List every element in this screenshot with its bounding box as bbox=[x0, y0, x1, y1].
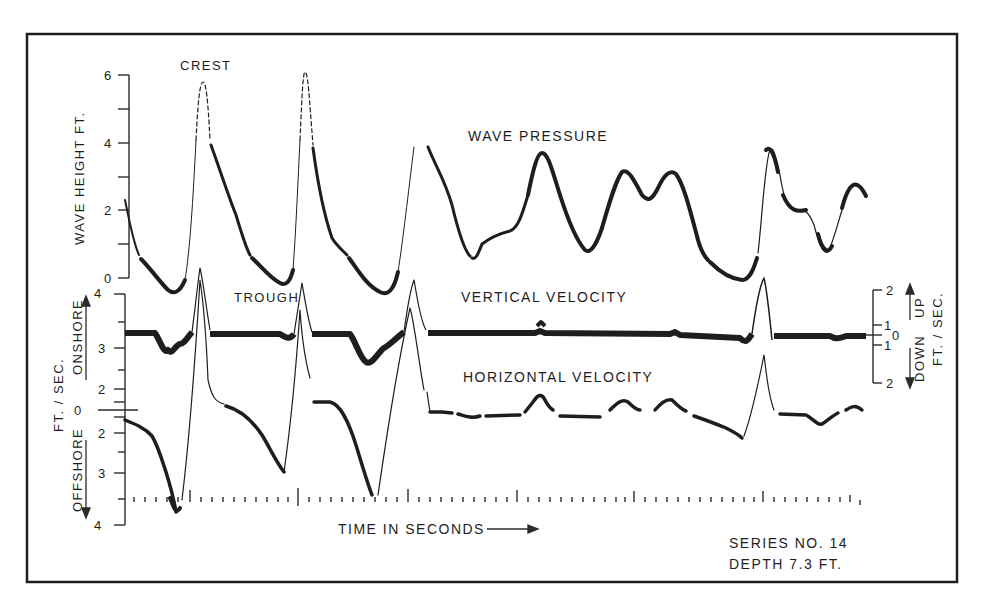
time-ticks bbox=[134, 488, 860, 506]
trough-label: TROUGH bbox=[234, 290, 299, 305]
svg-text:0: 0 bbox=[104, 271, 111, 286]
time-axis-label: TIME IN SECONDS bbox=[338, 521, 485, 537]
svg-text:1: 1 bbox=[884, 338, 891, 353]
svg-text:4: 4 bbox=[104, 136, 111, 151]
wave-height-axis bbox=[118, 75, 129, 278]
svg-text:6: 6 bbox=[104, 68, 111, 83]
up-label: UP bbox=[912, 297, 927, 318]
wave-height-tick-labels: 6 4 2 0 bbox=[104, 68, 111, 286]
horizontal-velocity-axis bbox=[98, 294, 138, 525]
svg-text:2: 2 bbox=[886, 283, 893, 298]
vertical-velocity-trace bbox=[125, 268, 866, 363]
onshore-label: ONSHORE bbox=[70, 299, 85, 375]
depth-label: DEPTH 7.3 FT. bbox=[729, 556, 843, 572]
svg-text:4: 4 bbox=[94, 518, 101, 533]
wave-height-axis-label: WAVE HEIGHT FT. bbox=[72, 112, 87, 246]
svg-text:0: 0 bbox=[74, 403, 81, 418]
vertical-velocity-label: VERTICAL VELOCITY bbox=[461, 289, 627, 305]
wave-pressure-label: WAVE PRESSURE bbox=[468, 128, 608, 144]
velocity-axis-label: FT. / SEC. bbox=[51, 358, 66, 432]
svg-text:1: 1 bbox=[884, 318, 891, 333]
svg-text:2: 2 bbox=[98, 426, 105, 441]
vertical-velocity-units-label: FT. / SEC. bbox=[930, 292, 945, 366]
svg-text:3: 3 bbox=[98, 341, 105, 356]
wave-record-figure: 6 4 2 0 WAVE HEIGHT FT. 4 3 2 0 2 3 4 FT… bbox=[0, 0, 981, 610]
svg-text:2: 2 bbox=[98, 382, 105, 397]
crest-label: CREST bbox=[180, 58, 232, 73]
vertical-velocity-tick-labels: 2 1 0 1 2 bbox=[884, 283, 899, 391]
offshore-label: OFFSHORE bbox=[70, 428, 85, 512]
down-label: DOWN bbox=[912, 335, 927, 382]
svg-text:4: 4 bbox=[94, 286, 101, 301]
series-label: SERIES NO. 14 bbox=[729, 535, 848, 551]
time-arrow-icon bbox=[487, 525, 538, 533]
horizontal-velocity-trace bbox=[125, 280, 862, 512]
svg-text:2: 2 bbox=[886, 376, 893, 391]
svg-text:0: 0 bbox=[892, 328, 899, 343]
svg-text:3: 3 bbox=[98, 466, 105, 481]
horizontal-velocity-label: HORIZONTAL VELOCITY bbox=[463, 369, 653, 385]
wave-pressure-trace bbox=[125, 72, 866, 293]
svg-text:2: 2 bbox=[104, 203, 111, 218]
